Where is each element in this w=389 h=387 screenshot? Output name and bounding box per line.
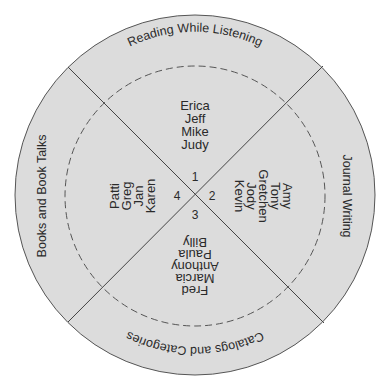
group-left-names: Patti Greg Jan Karen <box>107 179 158 214</box>
name: Karen <box>143 179 158 214</box>
station-label-left: Books and Book Talks <box>35 135 49 258</box>
name: Judy <box>181 137 209 152</box>
name: Billy <box>183 235 207 250</box>
station-label-right: Journal Writing <box>340 154 354 237</box>
group-number-4: 4 <box>174 189 181 203</box>
group-number-2: 2 <box>209 189 216 203</box>
group-number-3: 3 <box>192 208 199 222</box>
rotation-diagram: Reading While Listening Catalogs and Cat… <box>0 0 389 387</box>
group-top-names: Erica Jeff Mike Judy <box>180 98 210 152</box>
name: Kevin <box>232 180 247 213</box>
group-number-1: 1 <box>192 170 199 184</box>
